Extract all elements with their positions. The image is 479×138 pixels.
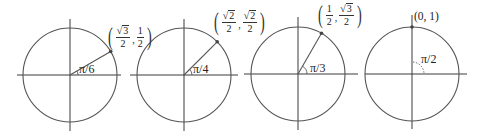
panel-pi-over-2 xyxy=(365,15,467,129)
x-numerator: 2 xyxy=(228,10,235,21)
y-numerator: 3 xyxy=(346,3,353,14)
x-fraction: 1 2 xyxy=(326,4,333,27)
angle-label-pi-over-4: π/4 xyxy=(193,63,208,75)
angle-label-pi-over-3: π/3 xyxy=(310,62,325,74)
x-numerator: 3 xyxy=(122,25,129,36)
x-denominator: 2 xyxy=(120,38,125,49)
y-denominator: 2 xyxy=(344,16,349,27)
angle-arc xyxy=(303,66,308,74)
angle-label-pi-over-2: π/2 xyxy=(421,53,436,65)
x-denominator: 2 xyxy=(226,23,231,34)
angle-label-pi-over-6: π/6 xyxy=(79,63,94,75)
x-fraction: √2 2 xyxy=(222,10,237,34)
left-paren: ( xyxy=(214,9,219,35)
angle-arc xyxy=(77,71,78,75)
y-numerator: 2 xyxy=(249,10,256,21)
point-on-circle xyxy=(410,25,414,29)
right-paren: ) xyxy=(260,9,265,35)
point-on-circle xyxy=(215,40,219,44)
coordinate-label-pi-over-2: (0, 1) xyxy=(414,11,439,23)
left-paren: ( xyxy=(108,24,113,50)
y-denominator: 2 xyxy=(138,38,143,49)
x-fraction: √3 2 xyxy=(116,25,131,49)
y-numerator: 1 xyxy=(137,26,144,38)
y-fraction: √2 2 xyxy=(243,10,258,34)
x-numerator: 1 xyxy=(326,4,333,16)
angle-arc xyxy=(190,69,192,75)
point-on-circle xyxy=(320,32,324,36)
right-paren: ) xyxy=(357,2,362,28)
y-fraction: 1 2 xyxy=(137,26,144,49)
x-denominator: 2 xyxy=(327,16,332,27)
right-paren: ) xyxy=(147,24,152,50)
coordinate-label-pi-over-4: ( √2 2 , √2 2 ) xyxy=(212,9,267,35)
coordinate-label-pi-over-6: ( √3 2 , 1 2 ) xyxy=(106,24,153,50)
y-fraction: √3 2 xyxy=(339,3,354,27)
y-denominator: 2 xyxy=(247,23,252,34)
left-paren: ( xyxy=(318,2,323,28)
unit-circle-figure: π/6 π/4 π/3 π/2 ( √3 2 , 1 2 ) ( √2 2 , … xyxy=(0,0,479,138)
coordinate-label-pi-over-3: ( 1 2 , √3 2 ) xyxy=(316,2,363,28)
